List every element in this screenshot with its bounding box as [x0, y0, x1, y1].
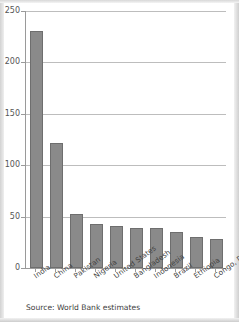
- x-tick-mark: [115, 269, 116, 272]
- bar: [170, 232, 183, 268]
- x-tick-mark: [75, 269, 76, 272]
- page-edge-left: [0, 0, 4, 322]
- page-edge-top: [0, 0, 239, 3]
- x-tick-mark: [175, 269, 176, 272]
- x-axis-ticks: [25, 269, 225, 272]
- x-tick-mark: [95, 269, 96, 272]
- bar: [90, 224, 103, 268]
- x-tick-mark: [55, 269, 56, 272]
- x-tick-mark: [35, 269, 36, 272]
- bar: [30, 31, 43, 268]
- bar: [110, 226, 123, 268]
- chart-figure: 050100150200250 IndiaChinaPakistanNigeri…: [0, 0, 239, 322]
- plot-area: [25, 11, 226, 269]
- page-edge-right: [234, 0, 239, 322]
- page-edge-bottom: [0, 318, 239, 322]
- bar: [150, 228, 163, 268]
- x-tick-mark: [195, 269, 196, 272]
- bar: [210, 239, 223, 268]
- source-note: Source: World Bank estimates: [26, 303, 140, 312]
- x-tick-mark: [135, 269, 136, 272]
- bar: [70, 214, 83, 268]
- bar: [190, 237, 203, 268]
- x-tick-mark: [215, 269, 216, 272]
- bar: [130, 228, 143, 268]
- x-tick-mark: [155, 269, 156, 272]
- bar-series: [26, 11, 226, 268]
- bar: [50, 143, 63, 268]
